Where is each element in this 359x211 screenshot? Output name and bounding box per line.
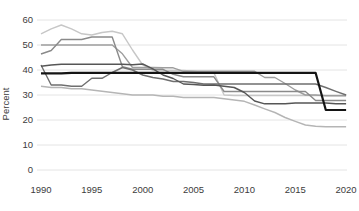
x-axis-tick-labels: 1990199520002005201020152020 xyxy=(30,184,356,195)
y-tick-label: 60 xyxy=(22,14,33,25)
x-tick-label: 2015 xyxy=(285,184,306,195)
y-tick-label: 40 xyxy=(22,64,33,75)
x-tick-label: 1990 xyxy=(30,184,51,195)
x-tick-label: 2010 xyxy=(234,184,255,195)
y-axis-title: Percent xyxy=(0,87,11,120)
y-tick-label: 0 xyxy=(28,164,33,175)
y-tick-label: 30 xyxy=(22,89,33,100)
line-chart: 0102030405060 19901995200020052010201520… xyxy=(0,0,359,211)
chart-canvas: 0102030405060 19901995200020052010201520… xyxy=(0,0,359,211)
y-tick-label: 10 xyxy=(22,139,33,150)
series-line-series-4 xyxy=(41,37,346,101)
x-tick-label: 2000 xyxy=(132,184,153,195)
x-tick-label: 2005 xyxy=(183,184,204,195)
y-tick-label: 50 xyxy=(22,39,33,50)
x-tick-label: 2020 xyxy=(336,184,357,195)
y-tick-label: 20 xyxy=(22,114,33,125)
series-lines xyxy=(41,25,346,127)
x-tick-label: 1995 xyxy=(81,184,102,195)
y-axis-tick-labels: 0102030405060 xyxy=(22,14,33,175)
